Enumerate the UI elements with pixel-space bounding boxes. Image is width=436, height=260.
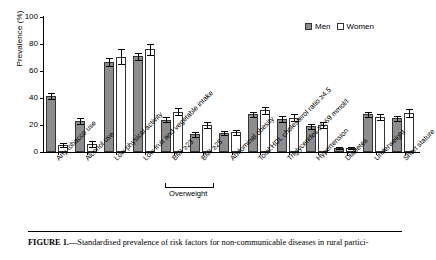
y-tick-label: 0 [12,148,38,156]
error-bar-cap-men [106,66,113,67]
error-bar-cap-women [204,128,211,129]
error-bar-women [409,109,410,117]
error-bar-cap-men [221,131,228,132]
error-bar-cap-men [279,122,286,123]
error-bar-cap-men [192,137,199,138]
y-tick-mark [40,71,43,72]
error-bar-cap-women [175,108,182,109]
bar-women [116,57,126,152]
error-bar-cap-men [135,60,142,61]
error-bar-cap-men [48,93,55,94]
error-bar-women [380,114,381,121]
y-tick-mark [40,17,43,18]
error-bar-cap-men [106,58,113,59]
error-bar-cap-men [250,117,257,118]
error-bar-women [265,107,266,114]
error-bar-cap-men [221,135,228,136]
error-bar-women [178,108,179,115]
error-bar-men [138,53,139,60]
error-bar-cap-women [377,114,384,115]
bar-women [145,49,155,152]
error-bar-cap-men [365,117,372,118]
caption-rule [28,231,402,232]
error-bar-cap-women [147,44,154,45]
error-bar-cap-men [192,132,199,133]
error-bar-cap-men [48,99,55,100]
error-bar-cap-women [118,49,125,50]
error-bar-cap-men [163,117,170,118]
error-bar-women [207,122,208,129]
error-bar-cap-men [394,121,401,122]
error-bar-cap-men [394,116,401,117]
error-bar-cap-men [77,118,84,119]
error-bar-women [121,49,122,64]
error-bar-cap-men [308,124,315,125]
error-bar-cap-women [233,135,240,136]
bar-group [188,17,217,152]
error-bar-cap-women [262,107,269,108]
error-bar-cap-women [204,122,211,123]
error-bar-cap-women [406,109,413,110]
error-bar-cap-women [406,117,413,118]
error-bar-cap-men [163,122,170,123]
bar-plot [44,17,419,152]
bracket-label: Overweight [147,189,230,198]
y-tick-mark [40,125,43,126]
bracket-line [165,183,214,188]
y-tick-mark [40,98,43,99]
chart-area: Prevalence (%) 020406080100 Men Women An… [0,0,429,226]
error-bar-cap-women [233,130,240,131]
figure-caption: FIGURE 1.—Standardised prevalence of ris… [28,238,408,248]
bar-group [44,17,73,152]
error-bar-cap-women [377,120,384,121]
error-bar-cap-men [279,116,286,117]
error-bar-men [51,93,52,100]
bar-group [361,17,390,152]
y-tick-label: 100 [12,13,38,21]
y-tick-label: 20 [12,121,38,129]
error-bar-cap-women [118,64,125,65]
y-tick-label: 40 [12,94,38,102]
caption-body: —Standardised prevalence of risk factors… [69,238,369,247]
error-bar-cap-men [336,147,343,148]
bar-group [217,17,246,152]
error-bar-cap-men [365,112,372,113]
error-bar-women [150,44,151,55]
y-tick-mark [40,152,43,153]
error-bar-men [109,58,110,66]
y-tick-label: 80 [12,40,38,48]
caption-figure-number: FIGURE 1. [28,238,69,247]
error-bar-cap-men [77,124,84,125]
bar-men [46,96,56,152]
error-bar-cap-women [89,141,96,142]
error-bar-cap-men [135,53,142,54]
error-bar-cap-women [147,55,154,56]
error-bar-cap-men [336,149,343,150]
y-tick-mark [40,44,43,45]
error-bar-cap-men [250,112,257,113]
y-tick-label: 60 [12,67,38,75]
